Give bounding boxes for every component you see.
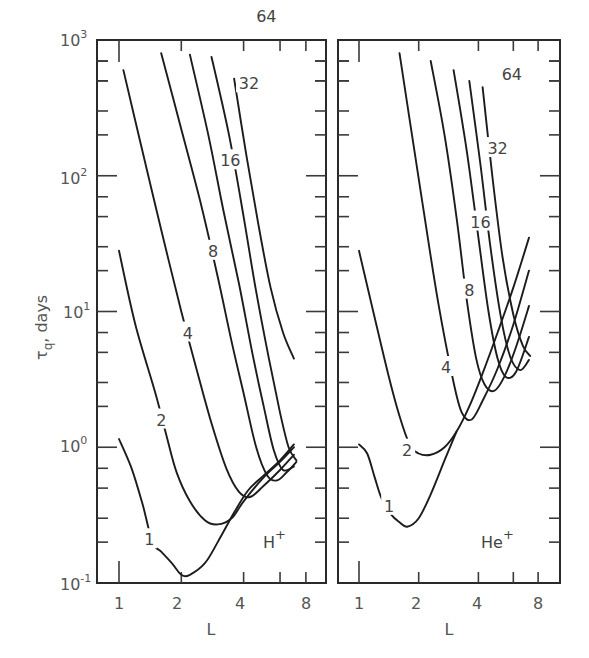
curve-label-1: 1 bbox=[144, 530, 154, 549]
energy-curve-2 bbox=[119, 251, 294, 525]
curve-label-32: 32 bbox=[487, 139, 507, 158]
xtick-label-4: 4 bbox=[472, 594, 482, 613]
xtick-label-1: 1 bbox=[354, 594, 364, 613]
curve-label-8: 8 bbox=[464, 281, 474, 300]
ytick-label-1e3: 103 bbox=[60, 28, 87, 50]
curve-label-1: 1 bbox=[384, 497, 394, 516]
figure: 103 102 101 100 10-1 τq, days 1248163264… bbox=[0, 0, 589, 658]
energy-curve-32 bbox=[212, 57, 297, 460]
curve-label-32: 32 bbox=[239, 74, 259, 93]
x-tick-labels-left: 1 2 4 8 bbox=[114, 594, 311, 613]
he-plus-label: He+ bbox=[481, 527, 514, 552]
ytick-label-1e-1: 10-1 bbox=[60, 572, 91, 594]
curve-label-2: 2 bbox=[156, 411, 166, 430]
xtick-label-1: 1 bbox=[114, 594, 124, 613]
curve-label-64: 64 bbox=[256, 7, 276, 26]
curve-label-8: 8 bbox=[208, 242, 218, 261]
xtick-label-8: 8 bbox=[301, 594, 311, 613]
ytick-label-1e1: 101 bbox=[63, 300, 90, 322]
ytick-label-1e2: 102 bbox=[60, 166, 87, 188]
curve-label-16: 16 bbox=[470, 213, 490, 232]
xtick-label-2: 2 bbox=[172, 594, 182, 613]
y-tick-labels: 103 102 101 100 10-1 bbox=[60, 28, 91, 594]
energy-curve-2 bbox=[359, 238, 529, 456]
xtick-label-8: 8 bbox=[533, 594, 543, 613]
curve-energy-labels: 12481632641248163264 bbox=[141, 5, 525, 549]
xtick-label-2: 2 bbox=[411, 594, 421, 613]
curve-label-16: 16 bbox=[220, 151, 240, 170]
energy-curve-8 bbox=[161, 53, 296, 480]
he-plus-curves bbox=[359, 53, 530, 527]
x-axis-title-left: L bbox=[207, 620, 216, 639]
x-tick-labels-right: 1 2 4 8 bbox=[354, 594, 543, 613]
h-plus-curves bbox=[119, 53, 296, 576]
y-axis-title: τq, days bbox=[32, 295, 55, 360]
curve-label-2: 2 bbox=[402, 441, 412, 460]
energy-curve-1 bbox=[119, 439, 294, 576]
xtick-label-4: 4 bbox=[235, 594, 245, 613]
ytick-label-1e0: 100 bbox=[60, 434, 87, 456]
curve-label-4: 4 bbox=[183, 324, 193, 343]
curve-label-4: 4 bbox=[441, 358, 451, 377]
x-axis-title-right: L bbox=[445, 620, 454, 639]
curve-label-64: 64 bbox=[502, 65, 522, 84]
svg-text:τq, days: τq, days bbox=[32, 295, 55, 360]
h-plus-label: H+ bbox=[263, 527, 286, 552]
axis-ticks bbox=[97, 40, 560, 583]
